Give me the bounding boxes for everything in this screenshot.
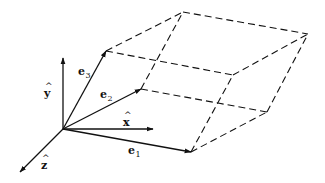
dashed-edge xyxy=(141,12,183,89)
dashed-edge xyxy=(183,12,308,34)
vector-labels: y^x^z^e1e2e3 xyxy=(41,65,141,172)
parallelepiped-diagram: y^x^z^e1e2e3 xyxy=(0,0,325,183)
vector-e1-label: e1 xyxy=(128,144,141,159)
dashed-edge xyxy=(233,34,308,75)
dashed-edge xyxy=(106,51,233,75)
vector-e2-label: e2 xyxy=(100,88,113,103)
parallelepiped-dashed-edges xyxy=(106,12,308,152)
vector-e1-arrow xyxy=(63,129,191,152)
vector-e3-label: e3 xyxy=(78,65,91,80)
hat-icon: ^ xyxy=(42,153,50,163)
hat-icon: ^ xyxy=(45,81,53,91)
dashed-edge xyxy=(106,12,183,51)
hat-icon: ^ xyxy=(124,110,132,120)
dashed-edge xyxy=(141,89,267,112)
